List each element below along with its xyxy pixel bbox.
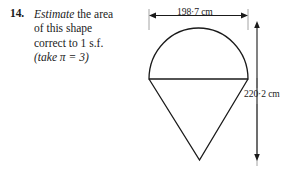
worksheet-question-page: 14. Estimate the area of this shape corr… bbox=[0, 0, 301, 173]
question-number: 14. bbox=[10, 7, 24, 19]
width-dimension-label: 198·7 cm bbox=[177, 6, 213, 17]
height-arrowhead-top-icon bbox=[254, 21, 260, 28]
question-line2: of this shape bbox=[34, 22, 92, 34]
question-emphasis-word: Estimate bbox=[34, 8, 74, 20]
height-arrowhead-bottom-icon bbox=[254, 154, 260, 161]
width-arrowhead-left-icon bbox=[149, 13, 156, 19]
figure-svg bbox=[138, 0, 301, 173]
question-text: Estimate the area of this shape correct … bbox=[34, 7, 144, 65]
question-line1-rest: the area bbox=[74, 8, 113, 20]
width-arrowhead-right-icon bbox=[241, 13, 248, 19]
figure-diagram: 198·7 cm 220·2 cm bbox=[138, 0, 301, 173]
semicircle-arc bbox=[149, 28, 248, 79]
question-line3: correct to 1 s.f. bbox=[34, 37, 103, 49]
question-line4: (take π = 3) bbox=[34, 51, 89, 63]
inverted-triangle bbox=[149, 79, 248, 160]
height-dimension-label: 220·2 cm bbox=[244, 88, 280, 99]
